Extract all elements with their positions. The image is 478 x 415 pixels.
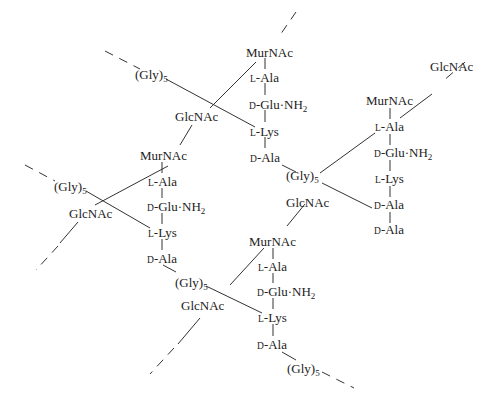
l-ala-label: L-Ala (258, 259, 287, 274)
gly5-label: (Gly)5 (135, 67, 168, 84)
d-glu-nh2-label: D-Glu·NH2 (249, 97, 307, 114)
d-glu-nh2-label: D-Glu·NH2 (147, 199, 205, 216)
gly5-label: (Gly)5 (54, 179, 87, 196)
murnac-label: MurNAc (246, 45, 293, 60)
l-lys-label: L-Lys (258, 310, 287, 325)
murnac-label: MurNAc (140, 148, 187, 163)
l-lys-label: L-Lys (375, 171, 404, 186)
d-ala-label: D-Ala (374, 197, 404, 212)
murnac-label: MurNAc (366, 93, 413, 108)
d-ala-label: D-Ala (147, 251, 177, 266)
gly5-label: (Gly)5 (175, 275, 208, 292)
d-ala-label: D-Ala (250, 150, 280, 165)
d-ala-terminal-label: D-Ala (374, 222, 404, 237)
glcnac-label: GlcNAc (430, 59, 474, 74)
gly5-label: (Gly)5 (287, 361, 320, 378)
glcnac-label: GlcNAc (175, 109, 219, 124)
glcnac-label: GlcNAc (286, 195, 330, 210)
glcnac-label: GlcNAc (181, 298, 225, 313)
l-lys-label: L-Lys (148, 225, 177, 240)
l-ala-label: L-Ala (148, 174, 177, 189)
l-ala-label: L-Ala (375, 119, 404, 134)
d-glu-nh2-label: D-Glu·NH2 (257, 284, 315, 301)
d-glu-nh2-label: D-Glu·NH2 (374, 145, 432, 162)
l-ala-label: L-Ala (250, 70, 279, 85)
gly5-label: (Gly)5 (286, 168, 319, 185)
glcnac-label: GlcNAc (69, 206, 113, 221)
murnac-label: MurNAc (249, 234, 296, 249)
peptidoglycan-diagram: MurNAc L-Ala D-Glu·NH2 L-Lys D-Ala (Gly)… (0, 0, 478, 415)
d-ala-label: D-Ala (257, 337, 287, 352)
